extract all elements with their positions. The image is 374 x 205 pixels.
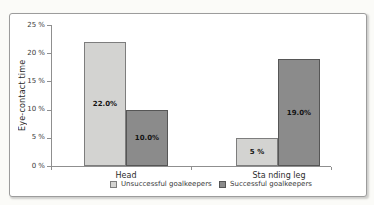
bar-unsuccessful: 22.0%	[84, 42, 126, 166]
y-axis-title: Eye-contact time	[16, 25, 29, 166]
legend-item: Unsuccessful goalkeepers	[110, 180, 212, 188]
x-axis-tick	[51, 167, 52, 170]
bar-successful: 19.0%	[278, 59, 320, 166]
bar-chart: Eye-contact time 0 %5 %10 %15 %20 %25 %2…	[10, 14, 366, 196]
y-axis-tick	[47, 53, 51, 54]
y-axis-tick-label: 0 %	[19, 163, 45, 170]
y-axis-tick-label: 10 %	[19, 106, 45, 113]
legend: Unsuccessful goalkeepersSuccessful goalk…	[10, 180, 366, 192]
x-axis-category-label: Head	[116, 171, 137, 180]
y-axis-tick	[47, 110, 51, 111]
y-axis-tick-label: 15 %	[19, 78, 45, 85]
y-axis-tick	[47, 138, 51, 139]
legend-item: Successful goalkeepers	[219, 180, 312, 188]
chart-frame: Eye-contact time 0 %5 %10 %15 %20 %25 %2…	[9, 13, 367, 197]
bar-value-label: 19.0%	[279, 110, 319, 117]
y-axis-tick-label: 5 %	[19, 134, 45, 141]
x-axis-category-label: Sta nding leg	[253, 171, 306, 180]
bar-unsuccessful: 5 %	[236, 138, 278, 166]
y-axis-tick-label: 20 %	[19, 50, 45, 57]
bar-value-label: 22.0%	[85, 101, 125, 108]
legend-label: Successful goalkeepers	[230, 180, 312, 188]
bar-value-label: 5 %	[237, 149, 277, 156]
x-axis-tick	[191, 167, 192, 170]
y-axis-line	[51, 25, 52, 166]
legend-label: Unsuccessful goalkeepers	[121, 180, 212, 188]
bar-successful: 10.0%	[126, 110, 168, 166]
x-axis-tick	[331, 167, 332, 170]
y-axis-tick	[47, 25, 51, 26]
legend-swatch-icon	[110, 181, 117, 188]
y-axis-tick-label: 25 %	[19, 22, 45, 29]
y-axis-tick	[47, 81, 51, 82]
bar-value-label: 10.0%	[127, 135, 167, 142]
legend-swatch-icon	[219, 181, 226, 188]
